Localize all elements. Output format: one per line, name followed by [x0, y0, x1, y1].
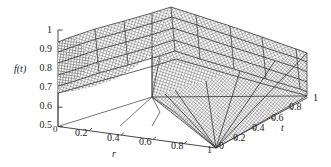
z-tick-0_5: 0.5: [26, 119, 52, 130]
z-tick-1: 1: [26, 24, 52, 35]
y-tick-1: 1: [313, 92, 318, 103]
surface-mesh: [58, 7, 307, 148]
x-tick-0_2: 0.2: [75, 127, 88, 138]
x-axis-label: r: [112, 148, 116, 159]
x-tick-0_6: 0.6: [139, 136, 152, 147]
x-tick-0_8: 0.8: [171, 140, 184, 151]
z-tick-0_6: 0.6: [26, 100, 52, 111]
y-axis-label: t: [281, 122, 284, 133]
y-tick-0_2: 0.2: [233, 132, 246, 143]
z-tick-0_8: 0.8: [26, 62, 52, 73]
y-tick-0: 0: [219, 140, 224, 151]
z-tick-0_9: 0.9: [26, 43, 52, 54]
y-tick-0_4: 0.4: [252, 122, 265, 133]
z-axis-label: f(t): [14, 63, 26, 74]
x-tick-0: 0: [53, 124, 58, 134]
z-tick-0_7: 0.7: [26, 81, 52, 92]
y-tick-0_8: 0.8: [289, 101, 302, 112]
x-tick-0_4: 0.4: [107, 132, 120, 143]
x-tick-1: 1: [207, 144, 212, 155]
